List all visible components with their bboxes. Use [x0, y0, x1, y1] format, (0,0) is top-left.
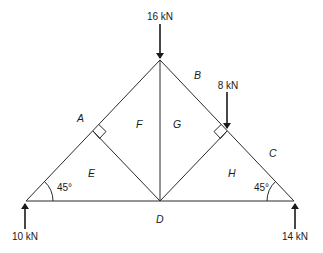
right-rafter-load-label: 8 kN — [218, 80, 239, 91]
right-reaction-label: 14 kN — [282, 231, 308, 242]
region-label-d: D — [156, 213, 164, 225]
region-label-b: B — [194, 69, 201, 81]
region-label-g: G — [173, 118, 181, 130]
left-strut — [93, 131, 160, 201]
right-angle-label: 45° — [254, 182, 269, 193]
left-angle-label: 45° — [57, 182, 72, 193]
right-right-angle-icon — [214, 125, 227, 139]
region-label-e: E — [88, 167, 96, 179]
left-right-angle-icon — [93, 125, 106, 139]
apex-load-label: 16 kN — [147, 11, 173, 22]
left-angle-arc-icon — [45, 182, 54, 202]
left-reaction-label: 10 kN — [12, 231, 38, 242]
truss-members — [26, 60, 294, 201]
region-label-f: F — [136, 118, 143, 130]
region-label-a: A — [76, 112, 84, 124]
truss-diagram: 45° 45° 16 kN 8 kN 10 kN 14 kN A B C D E… — [0, 0, 323, 253]
region-label-h: H — [228, 167, 236, 179]
right-strut — [160, 131, 227, 201]
region-label-c: C — [269, 147, 277, 159]
